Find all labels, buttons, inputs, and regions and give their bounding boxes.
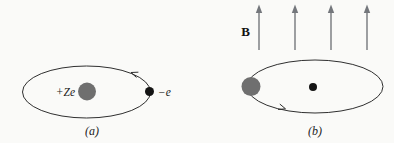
figure-canvas: +Ze −e (a) [0, 0, 394, 143]
field-arrow-icon [256, 5, 262, 51]
electron-icon [145, 87, 154, 96]
panel-b: B (b) [241, 5, 383, 138]
panel-a-caption: (a) [85, 124, 99, 138]
field-arrow-icon [364, 5, 370, 51]
nucleus-charge-label: +Ze [56, 86, 75, 98]
magnetic-field-arrows [256, 5, 370, 51]
center-dot-icon [309, 83, 317, 91]
nucleus-icon [78, 83, 96, 101]
atomic-orbit-figure: +Ze −e (a) [0, 0, 394, 143]
panel-b-caption: (b) [308, 124, 322, 138]
panel-a: +Ze −e (a) [23, 66, 171, 138]
electron-charge-label: −e [158, 86, 171, 98]
field-arrow-icon [292, 5, 298, 51]
magnetic-field-label: B [241, 24, 250, 39]
field-arrow-icon [328, 5, 334, 51]
orbiting-sphere-icon [242, 77, 261, 96]
